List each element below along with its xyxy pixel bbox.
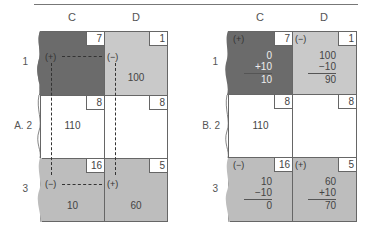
cell-a-r1-d: 1 (−) 100 [104,31,168,96]
cell-number: 16 [274,158,292,172]
cell-b-r2-c: 8 110 [228,94,293,158]
sign-plus: (+) [295,160,306,170]
sign-plus: (+) [233,34,244,44]
top-rule [34,4,358,5]
cell-b-r1-c: 7 (+) 0 +10 10 [228,31,293,95]
dashed-path-right [115,63,116,175]
wavy-edge [34,31,42,222]
cell-b-r1-d: 1 (−) 100 −10 90 [292,31,357,95]
sign-minus: (−) [45,179,56,189]
cell-number: 5 [338,158,356,172]
sign-minus: (−) [107,52,118,62]
row-label-3: 3 [204,183,218,194]
cell-a-r3-c: 16 (−) 10 [40,158,105,222]
column-header-c: C [62,11,82,23]
sign-plus: (+) [107,179,118,189]
calculation: 0 +10 10 [244,50,272,85]
cell-a-r2-c: 8 110 [40,95,105,159]
cell-number: 1 [149,32,167,46]
cell-b-r3-c: 16 (−) 10 −10 0 [228,157,293,222]
row-label-1: 1 [14,56,28,67]
row-label-2: A. 2 [0,120,32,131]
cell-number: 16 [86,159,104,173]
column-header-c: C [250,11,270,23]
cell-number: 1 [338,32,356,46]
row-label-2: B. 2 [188,120,220,131]
cell-number: 8 [86,96,104,110]
cell-b-r3-d: 5 (+) 60 +10 70 [292,157,357,222]
sign-minus: (−) [295,34,306,44]
sign-plus: (+) [45,52,56,62]
sign-minus: (−) [233,160,244,170]
cell-number: 8 [149,96,167,110]
dashed-path-left [51,63,52,175]
row-label-1: 1 [204,56,218,67]
cell-b-r2-d: 8 [292,94,357,158]
cell-value: 10 [41,200,104,211]
column-header-d: D [126,11,146,23]
row-label-3: 3 [14,183,28,194]
cell-number: 5 [149,159,167,173]
cell-a-r3-d: 5 (+) 60 [104,158,168,222]
column-header-d: D [314,11,334,23]
calculation: 100 −10 90 [308,50,336,85]
cell-number: 8 [274,95,292,109]
cell-number: 7 [274,32,292,46]
dashed-path-top [62,56,102,57]
cell-number: 7 [86,32,104,46]
calculation: 60 +10 70 [308,176,336,211]
calculation: 10 −10 0 [244,176,272,211]
cell-a-r2-d: 8 [104,95,168,159]
wavy-edge [222,31,230,222]
cell-number: 8 [338,95,356,109]
dashed-path-bottom [62,184,102,185]
cell-value: 110 [229,120,292,131]
cell-value: 60 [105,200,167,211]
cell-a-r1-c: 7 (+) [40,31,105,96]
